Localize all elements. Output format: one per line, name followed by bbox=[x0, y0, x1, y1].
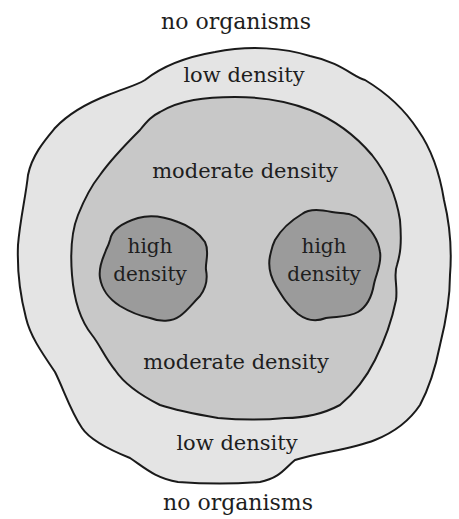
label-high-left-line1: high bbox=[128, 234, 173, 258]
label-moderate-density-bottom: moderate density bbox=[143, 350, 329, 374]
label-high-left-line2: density bbox=[113, 262, 187, 286]
label-no-organisms-bottom: no organisms bbox=[163, 490, 313, 515]
label-high-right-line2: density bbox=[287, 262, 361, 286]
label-high-right-line1: high bbox=[302, 234, 347, 258]
label-moderate-density-top: moderate density bbox=[152, 159, 338, 183]
label-no-organisms-top: no organisms bbox=[161, 9, 311, 34]
label-low-density-top: low density bbox=[183, 63, 304, 87]
density-zone-diagram: no organisms low density moderate densit… bbox=[0, 0, 459, 519]
label-low-density-bottom: low density bbox=[176, 431, 297, 455]
